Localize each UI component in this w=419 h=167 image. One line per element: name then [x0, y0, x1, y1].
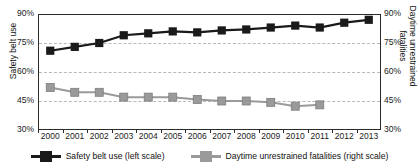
- data-point-marker: [169, 27, 177, 35]
- data-point-marker: [144, 29, 152, 37]
- data-point-marker: [46, 83, 54, 91]
- data-point-marker: [144, 93, 152, 101]
- data-point-marker: [267, 98, 275, 106]
- series-safety-belt-use: [46, 16, 373, 55]
- data-point-marker: [71, 88, 79, 96]
- data-point-marker: [242, 25, 250, 33]
- data-point-marker: [218, 26, 226, 34]
- data-point-marker: [169, 93, 177, 101]
- data-point-marker: [316, 101, 324, 109]
- chart-container: Safety belt use Daytime unrestrained fat…: [0, 0, 419, 167]
- data-point-marker: [193, 95, 201, 103]
- data-point-marker: [291, 102, 299, 110]
- data-point-marker: [120, 93, 128, 101]
- data-point-marker: [267, 23, 275, 31]
- data-point-marker: [120, 31, 128, 39]
- data-point-marker: [193, 28, 201, 36]
- series-layer: [0, 0, 419, 167]
- data-point-marker: [218, 97, 226, 105]
- data-point-marker: [340, 19, 348, 27]
- data-point-marker: [95, 88, 103, 96]
- series-line: [50, 87, 320, 106]
- data-point-marker: [365, 16, 373, 24]
- data-point-marker: [316, 23, 324, 31]
- data-point-marker: [242, 97, 250, 105]
- series-daytime-unrestrained-fatalities: [46, 83, 324, 110]
- data-point-marker: [291, 22, 299, 30]
- data-point-marker: [95, 39, 103, 47]
- data-point-marker: [46, 47, 54, 55]
- data-point-marker: [71, 43, 79, 51]
